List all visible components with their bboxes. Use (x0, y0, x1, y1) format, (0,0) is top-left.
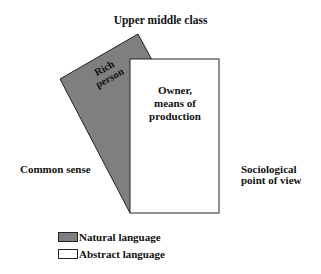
legend-label-natural: Natural language (79, 231, 161, 243)
left-label-common-sense: Common sense (20, 163, 91, 175)
right-label-line-2: point of view (241, 175, 302, 186)
abstract-card-line-3: production (131, 110, 219, 123)
abstract-card-text: Owner, means of production (131, 84, 219, 123)
legend: Natural language Abstract language (58, 228, 165, 262)
abstract-card-line-2: means of (131, 97, 219, 110)
legend-item-natural: Natural language (58, 228, 165, 245)
legend-label-abstract: Abstract language (79, 248, 165, 260)
legend-swatch-abstract (58, 249, 78, 259)
abstract-card-line-1: Owner, (131, 84, 219, 97)
legend-swatch-natural (58, 232, 78, 242)
abstract-language-card (130, 59, 219, 213)
right-label-sociological: Sociological point of view (241, 164, 302, 186)
legend-item-abstract: Abstract language (58, 245, 165, 262)
